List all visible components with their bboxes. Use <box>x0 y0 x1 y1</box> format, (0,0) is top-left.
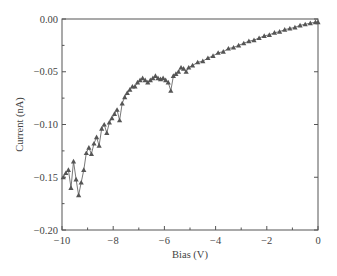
plot-frame <box>62 19 318 230</box>
triangle-marker-icon <box>292 25 297 30</box>
triangle-marker-icon <box>221 49 226 54</box>
data-series-markers <box>61 20 321 198</box>
x-tick-label: −10 <box>54 235 70 246</box>
triangle-marker-icon <box>94 135 99 140</box>
triangle-marker-icon <box>114 107 119 112</box>
triangle-marker-icon <box>236 43 241 48</box>
triangle-marker-icon <box>97 143 102 148</box>
triangle-marker-icon <box>107 120 112 125</box>
triangle-marker-icon <box>241 41 246 46</box>
y-tick-label: −0.20 <box>34 225 58 236</box>
y-tick-label: −0.15 <box>34 172 58 183</box>
x-axis: −10−8−6−4−20 <box>54 226 321 246</box>
triangle-marker-icon <box>89 151 94 156</box>
x-tick-label: −6 <box>159 235 170 246</box>
triangle-marker-icon <box>84 150 89 155</box>
triangle-marker-icon <box>122 94 127 99</box>
triangle-marker-icon <box>86 145 91 150</box>
x-axis-title: Bias (V) <box>172 249 208 261</box>
x-tick-label: −8 <box>108 235 119 246</box>
y-tick-label: −0.10 <box>34 119 58 130</box>
x-tick-label: −4 <box>210 235 222 246</box>
x-tick-label: −2 <box>261 235 272 246</box>
triangle-marker-icon <box>190 63 195 68</box>
data-series-line <box>63 22 318 195</box>
triangle-marker-icon <box>66 167 71 172</box>
triangle-marker-icon <box>81 167 86 172</box>
y-tick-label: −0.05 <box>34 66 58 77</box>
triangle-marker-icon <box>277 29 282 34</box>
triangle-marker-icon <box>210 53 215 58</box>
triangle-marker-icon <box>104 130 109 135</box>
triangle-marker-icon <box>73 177 78 182</box>
triangle-marker-icon <box>168 88 173 93</box>
triangle-marker-icon <box>117 118 122 123</box>
triangle-marker-icon <box>79 180 84 185</box>
triangle-marker-icon <box>176 69 181 74</box>
y-axis-title: Current (nA) <box>14 97 26 152</box>
triangle-marker-icon <box>91 141 96 146</box>
triangle-marker-icon <box>102 122 107 127</box>
x-tick-label: 0 <box>315 235 320 246</box>
iv-chart: 0.00−0.05−0.10−0.15−0.20 −10−8−6−4−20 Bi… <box>0 0 337 276</box>
triangle-marker-icon <box>68 185 73 190</box>
triangle-marker-icon <box>231 45 236 50</box>
triangle-marker-icon <box>71 159 76 164</box>
triangle-marker-icon <box>205 55 210 60</box>
triangle-marker-icon <box>251 38 256 43</box>
triangle-marker-icon <box>257 35 262 40</box>
triangle-marker-icon <box>109 116 114 121</box>
triangle-marker-icon <box>76 193 81 198</box>
triangle-marker-icon <box>99 126 104 131</box>
triangle-marker-icon <box>267 32 272 37</box>
triangle-marker-icon <box>112 111 117 116</box>
y-tick-label: 0.00 <box>40 14 58 25</box>
triangle-marker-icon <box>200 59 205 64</box>
triangle-marker-icon <box>120 101 125 106</box>
y-axis: 0.00−0.05−0.10−0.15−0.20 <box>34 14 318 236</box>
